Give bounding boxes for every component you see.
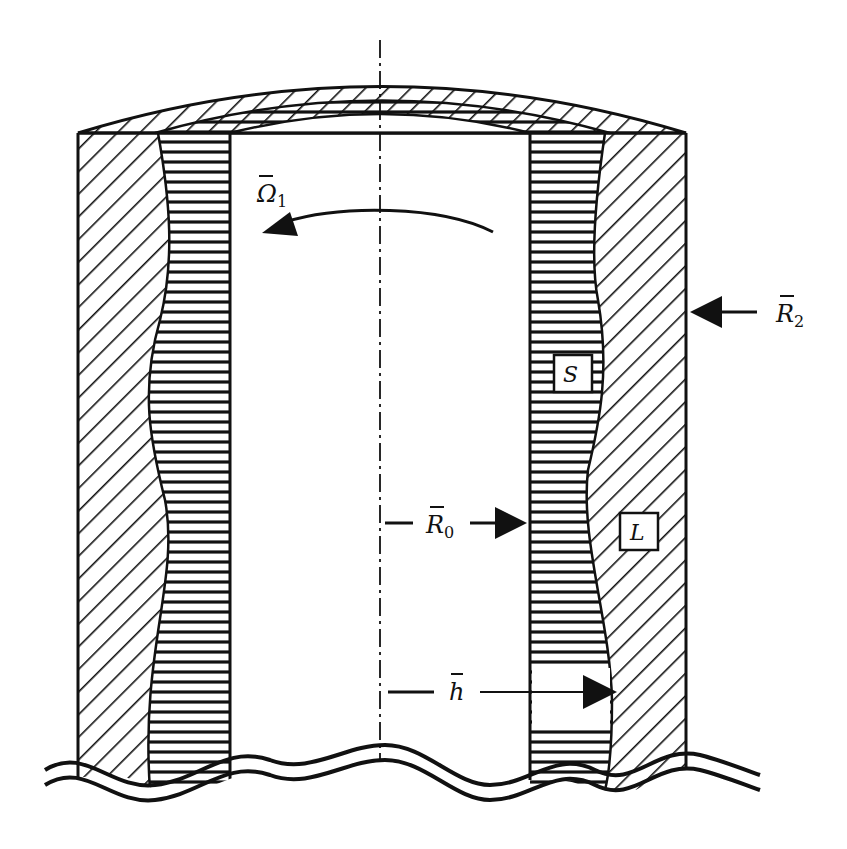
solid-label: S bbox=[563, 362, 578, 387]
h-label: h bbox=[449, 678, 464, 706]
rotation-arrow bbox=[285, 210, 493, 232]
r0-arrowhead-icon bbox=[495, 507, 527, 539]
omega-label: Ω1 bbox=[256, 180, 287, 211]
r2-label: R2 bbox=[775, 300, 804, 331]
liquid-label: L bbox=[629, 520, 645, 545]
cylinder-diagram: Ω1 R2 R0 h S L bbox=[0, 0, 847, 849]
r0-label: R0 bbox=[425, 511, 454, 542]
rotation-arrowhead-icon bbox=[262, 212, 298, 236]
r2-arrowhead-icon bbox=[690, 296, 722, 328]
